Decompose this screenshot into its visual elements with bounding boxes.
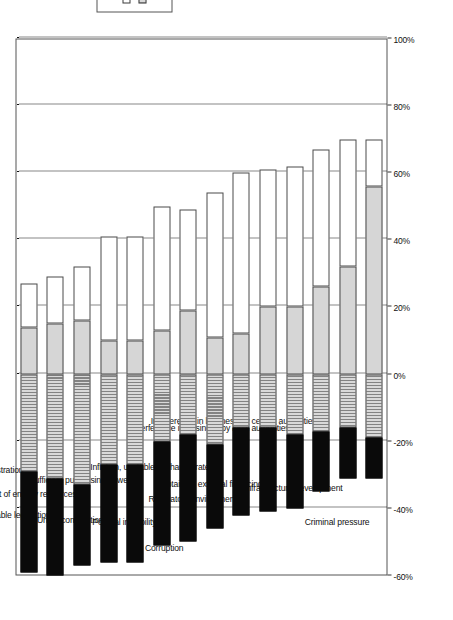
bar-segment [339,374,356,428]
bar-segment [312,374,329,431]
bar-segment [73,320,90,374]
legend-item: Significant Obstacle [137,0,147,3]
bar-segment [206,444,223,528]
axis-tick [387,104,391,105]
axis-tick [387,440,391,441]
chart-canvas: -60%-40%-20%0%20%40%60%80%100% Tax rates… [0,0,453,620]
bar-segment [100,236,117,340]
bar-segment [126,340,143,374]
axis-tick [387,574,391,575]
bar-segment [286,434,303,508]
bar-segment [312,149,329,287]
axis-tick-label: -60% [393,571,412,581]
bar-segment [259,169,276,307]
axis-tick [387,37,391,38]
bar-segment [46,323,63,373]
category-label: Criminal pressure [304,516,369,526]
bar-segment [153,206,170,330]
axis-tick-label: 20% [393,303,409,313]
bar-segment [153,441,170,545]
bar-segment [179,434,196,541]
gridline [16,372,386,373]
bar-segment [126,374,143,465]
axis-tick [387,238,391,239]
gridline [16,237,386,238]
bar-segment [339,266,356,373]
bar-segment [232,374,249,428]
axis-tick-label: 60% [393,168,409,178]
bar-segment [100,374,117,465]
bar-segment [339,139,356,267]
bar-segment [100,464,117,561]
bar-segment [312,431,329,491]
bar-segment [365,186,382,374]
bar-segment [206,192,223,336]
bar-segment [20,283,37,327]
axis-tick-label: 0% [393,370,405,380]
bar-segment [46,478,63,575]
bar-segment [73,374,90,485]
bar-segment [20,374,37,471]
bar-segment [312,286,329,373]
gridline [16,36,386,37]
gridline [16,103,386,104]
bar-segment [259,427,276,511]
bar-segment [259,307,276,374]
axis-tick [387,171,391,172]
bar-segment [206,374,223,444]
axis-tick-label: -20% [393,437,412,447]
bar-segment [179,209,196,310]
axis-tick [387,373,391,374]
legend-item: No Obstacle [121,0,131,3]
bar-segment [286,307,303,374]
rotated-chart-container: -60%-40%-20%0%20%40%60%80%100% Tax rates… [0,0,453,620]
axis-tick-label: 100% [393,34,414,44]
axis-tick-label: -40% [393,504,412,514]
bar-segment [46,374,63,478]
bar-segment [286,166,303,307]
bar-segment [100,340,117,374]
axis-tick-label: 80% [393,101,409,111]
bar-segment [46,276,63,323]
bar-segment [206,337,223,374]
bar-segment [73,266,90,320]
bar-segment [339,427,356,477]
bar-segment [365,437,382,477]
category-label: Cost of energy resources [0,489,76,499]
gridline [16,506,386,507]
chart-legend: No ObstacleSignificant Obstacle Minor Ob… [96,0,172,12]
bar-segment [153,330,170,374]
bar-segment [232,172,249,333]
bar-segment [73,484,90,565]
bar-segment [365,374,382,438]
gridline [16,305,386,306]
bar-segment [232,333,249,373]
axis-tick [387,306,391,307]
legend-swatch-icon [138,0,146,3]
bar-segment [126,236,143,340]
gridline [16,170,386,171]
axis-tick [387,507,391,508]
bar-segment [179,374,196,434]
legend-swatch-icon [122,0,130,3]
bar-segment [286,374,303,434]
bar-segment [153,374,170,441]
bar-segment [20,327,37,374]
axis-tick-label: 40% [393,235,409,245]
legend-column-1: No ObstacleSignificant Obstacle [118,0,150,3]
bar-segment [20,471,37,572]
bar-segment [365,139,382,186]
bar-segment [179,310,196,374]
bar-segment [126,464,143,561]
bar-segment [259,374,276,428]
gridline [16,439,386,440]
bar-segment [232,427,249,514]
